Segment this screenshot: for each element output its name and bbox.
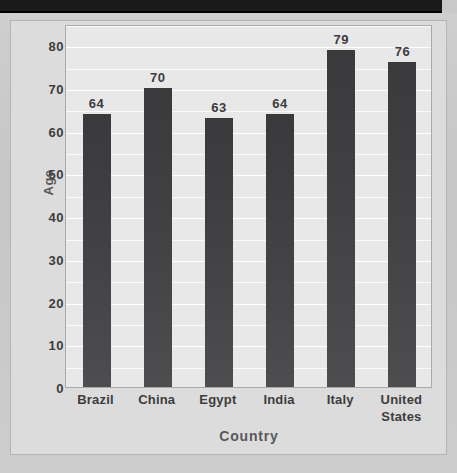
- cropped-title-band: [0, 0, 442, 13]
- y-axis-tick-label: 50: [20, 167, 64, 182]
- bar-value-label: 64: [89, 96, 104, 111]
- bar[interactable]: [205, 118, 233, 387]
- x-axis-category-label: China: [126, 391, 187, 408]
- x-axis-category-label: Egypt: [187, 391, 248, 408]
- y-axis-tick-labels: 01020304050607080: [12, 25, 64, 388]
- bar-value-label: 63: [211, 100, 226, 115]
- bar-slot: 64: [66, 26, 127, 387]
- y-axis-tick-label: 30: [20, 252, 64, 267]
- plot-area: 647063647976: [65, 25, 432, 388]
- bar-slot: 79: [311, 26, 372, 387]
- x-axis-category-label: India: [249, 391, 310, 408]
- y-axis-tick-label: 80: [20, 39, 64, 54]
- y-axis-tick-label: 60: [20, 124, 64, 139]
- bar-value-label: 64: [272, 96, 287, 111]
- bar-value-label: 70: [150, 70, 165, 85]
- bar-slot: 64: [250, 26, 311, 387]
- bar[interactable]: [266, 114, 294, 387]
- bar-value-label: 76: [395, 44, 410, 59]
- bar-value-label: 79: [334, 32, 349, 47]
- x-axis-title: Country: [65, 428, 433, 444]
- bar[interactable]: [144, 88, 172, 387]
- bar-slot: 63: [188, 26, 249, 387]
- bar-slot: 70: [127, 26, 188, 387]
- x-axis-category-label: Italy: [310, 391, 371, 408]
- x-axis-category-label: Brazil: [65, 391, 126, 408]
- x-axis-category-labels: BrazilChinaEgyptIndiaItalyUnited States: [65, 391, 432, 429]
- bar[interactable]: [83, 114, 111, 387]
- y-axis-tick-label: 20: [20, 295, 64, 310]
- chart-page: Age 01020304050607080 647063647976 Brazi…: [0, 0, 457, 473]
- y-axis-tick-label: 70: [20, 82, 64, 97]
- bar[interactable]: [327, 50, 355, 387]
- bar-slot: 76: [372, 26, 432, 387]
- y-axis-tick-label: 0: [20, 381, 64, 396]
- title-band-right-gap: [442, 0, 457, 13]
- y-axis-tick-label: 10: [20, 338, 64, 353]
- bar[interactable]: [388, 62, 416, 387]
- bar-series: 647063647976: [66, 26, 431, 387]
- y-axis-tick-label: 40: [20, 210, 64, 225]
- x-axis-category-label: United States: [371, 391, 432, 425]
